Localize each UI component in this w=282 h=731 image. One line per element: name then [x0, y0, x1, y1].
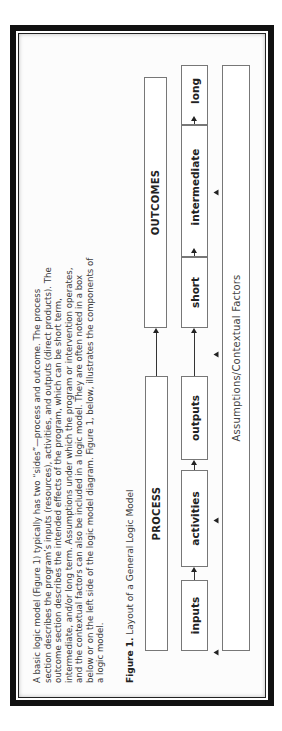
rotated-document-page: A basic logic model (Figure 1) typically… — [10, 25, 274, 706]
paragraph-line: outcome section describes the intended e… — [53, 33, 64, 683]
inputs-box: inputs — [181, 580, 208, 651]
outputs-box: outputs — [181, 376, 208, 460]
inputs-label: inputs — [189, 597, 201, 634]
process-to-outcomes-connector — [156, 333, 157, 376]
paragraph-line: section describes the program’s inputs (… — [43, 33, 54, 683]
intermediate-label: intermediate — [189, 149, 201, 226]
assumptions-box: Assumptions/Contextual Factors — [222, 65, 250, 651]
activities-label: activities — [189, 491, 201, 545]
connector — [194, 465, 195, 470]
outcomes-header-box: OUTCOMES — [144, 77, 167, 328]
activities-box: activities — [181, 470, 208, 567]
outputs-to-short-connector — [194, 333, 195, 376]
long-label: long — [189, 78, 201, 104]
figure-title: Layout of a General Logic Model — [125, 490, 135, 638]
inner-frame: A basic logic model (Figure 1) typically… — [18, 33, 266, 698]
short-label: short — [189, 277, 201, 308]
paragraph-line: and the contextual factors can also be i… — [74, 33, 85, 683]
arrow-up-icon — [214, 650, 219, 656]
intro-paragraph: A basic logic model (Figure 1) typically… — [32, 33, 106, 683]
arrow-right-icon — [153, 328, 159, 333]
connector — [194, 572, 195, 580]
paragraph-line: intermediate, and/or long term. Assumpti… — [64, 33, 75, 683]
figure-label: Figure 1. — [125, 638, 135, 683]
arrow-up-icon — [214, 190, 219, 196]
process-header-box: PROCESS — [145, 376, 168, 651]
figure-caption: Figure 1. Layout of a General Logic Mode… — [125, 490, 135, 683]
arrow-up-icon — [214, 352, 219, 358]
process-header-label: PROCESS — [151, 487, 162, 541]
paragraph-line: a logic model. — [95, 33, 106, 683]
arrow-up-icon — [214, 518, 219, 524]
outcomes-header-label: OUTCOMES — [150, 170, 161, 236]
arrow-right-icon — [191, 328, 197, 333]
arrow-right-icon — [191, 116, 197, 121]
paragraph-line: below or on the left side of the logic m… — [85, 33, 96, 683]
outputs-label: outputs — [189, 395, 201, 441]
paragraph-line: A basic logic model (Figure 1) typically… — [32, 33, 43, 683]
short-box: short — [181, 257, 208, 328]
arrow-right-icon — [191, 248, 197, 253]
arrow-right-icon — [191, 460, 197, 465]
assumptions-label: Assumptions/Contextual Factors — [231, 275, 242, 442]
intermediate-box: intermediate — [181, 125, 208, 257]
